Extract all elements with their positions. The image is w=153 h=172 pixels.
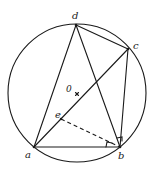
geometry-diagram: a b c d e 0	[0, 0, 153, 172]
angle-mark-abe	[106, 142, 112, 147]
label-c: c	[133, 40, 139, 51]
label-d: d	[72, 10, 78, 21]
label-a: a	[25, 149, 31, 160]
label-e: e	[55, 109, 61, 120]
label-center-o: 0	[66, 84, 72, 94]
vertex-d-dot	[75, 24, 78, 27]
circumcircle	[8, 24, 146, 162]
segment-ac	[34, 49, 128, 147]
label-b: b	[118, 150, 124, 161]
vertex-a-dot	[33, 146, 36, 149]
segment-cb	[120, 49, 128, 147]
center-cross-icon	[76, 93, 79, 96]
vertex-b-dot	[119, 146, 122, 149]
vertex-c-dot	[127, 48, 130, 51]
